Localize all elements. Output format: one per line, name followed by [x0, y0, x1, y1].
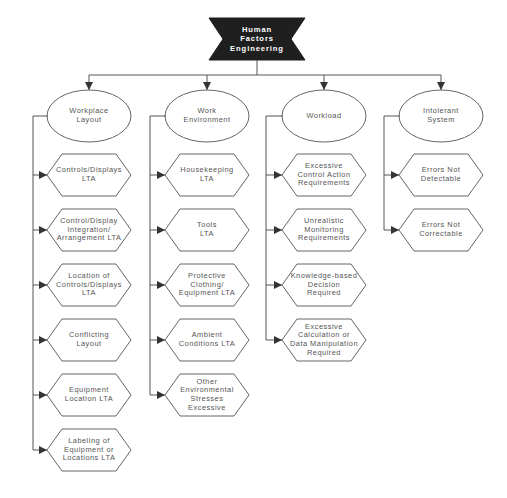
item-node-label: Knowledge-based Decision Required	[291, 272, 358, 298]
item-node-label: Unrealistic Monitoring Requirements	[298, 217, 350, 243]
item-node-label: Protective Clothing/ Equipment LTA	[179, 272, 235, 298]
item-node: Labeling of Equipment or Locations LTA	[53, 429, 125, 471]
root-node-human-factors-engineering-label: Human Factors Engineering	[230, 25, 284, 53]
arrow-right-icon	[274, 171, 282, 179]
item-node: Unrealistic Monitoring Requirements	[288, 209, 360, 251]
arrow-down-icon	[437, 82, 445, 90]
arrow-down-icon	[320, 82, 328, 90]
category-node-work-environment-label: Work Environment	[184, 107, 231, 124]
hfe-taxonomy-diagram: Human Factors EngineeringWorkplace Layou…	[0, 0, 507, 498]
arrow-right-icon	[391, 171, 399, 179]
arrow-right-icon	[39, 281, 47, 289]
arrow-right-icon	[39, 226, 47, 234]
item-node: Conflicting Layout	[53, 319, 125, 361]
item-node-label: Control/Display Integration/ Arrangement…	[57, 217, 122, 243]
arrow-down-icon	[203, 82, 211, 90]
item-node: Errors Not Detectable	[405, 154, 477, 196]
category-node-workplace-layout-label: Workplace Layout	[69, 107, 108, 124]
item-node: Ambient Conditions LTA	[171, 319, 243, 361]
item-node: Controls/Displays LTA	[53, 154, 125, 196]
item-node-label: Errors Not Correctable	[419, 221, 463, 238]
item-node: Other Environmental Stresses Excessive	[171, 374, 243, 416]
item-node-label: Labeling of Equipment or Locations LTA	[63, 437, 116, 463]
arrow-right-icon	[391, 226, 399, 234]
category-node-workplace-layout: Workplace Layout	[47, 90, 131, 142]
item-node: Housekeeping LTA	[171, 154, 243, 196]
arrow-right-icon	[157, 391, 165, 399]
item-node-label: Excessive Control Action Requirements	[297, 162, 350, 188]
arrow-right-icon	[274, 281, 282, 289]
item-node-label: Controls/Displays LTA	[56, 166, 122, 183]
arrow-right-icon	[157, 281, 165, 289]
arrow-right-icon	[39, 171, 47, 179]
item-node-label: Location of Controls/Displays LTA	[56, 272, 122, 298]
arrow-right-icon	[157, 336, 165, 344]
category-rail-line	[150, 116, 166, 395]
arrow-right-icon	[157, 171, 165, 179]
category-node-intolerant-system: Intolerant System	[399, 90, 483, 142]
arrow-right-icon	[274, 336, 282, 344]
category-node-workload: Workload	[282, 90, 366, 142]
item-node-label: Other Environmental Stresses Excessive	[180, 378, 234, 412]
item-node-label: Errors Not Detectable	[421, 166, 461, 183]
category-node-work-environment: Work Environment	[165, 90, 249, 142]
item-node-label: Housekeeping LTA	[180, 166, 233, 183]
item-node-label: Excessive Calculation or Data Manipulati…	[290, 323, 358, 357]
arrow-down-icon	[85, 82, 93, 90]
category-node-intolerant-system-label: Intolerant System	[423, 107, 459, 124]
item-node: Equipment Location LTA	[53, 374, 125, 416]
item-node-label: Tools LTA	[197, 221, 217, 238]
arrow-right-icon	[39, 336, 47, 344]
item-node-label: Ambient Conditions LTA	[179, 331, 235, 348]
item-node-label: Equipment Location LTA	[65, 386, 113, 403]
item-node: Excessive Calculation or Data Manipulati…	[288, 319, 360, 361]
item-node-label: Conflicting Layout	[69, 331, 109, 348]
arrow-right-icon	[157, 226, 165, 234]
item-node: Control/Display Integration/ Arrangement…	[53, 209, 125, 251]
arrow-right-icon	[39, 391, 47, 399]
root-node-human-factors-engineering: Human Factors Engineering	[209, 18, 305, 60]
category-node-workload-label: Workload	[306, 112, 341, 121]
item-node: Location of Controls/Displays LTA	[53, 264, 125, 306]
item-node: Excessive Control Action Requirements	[288, 154, 360, 196]
item-node: Knowledge-based Decision Required	[288, 264, 360, 306]
item-node: Protective Clothing/ Equipment LTA	[171, 264, 243, 306]
arrow-right-icon	[274, 226, 282, 234]
arrow-right-icon	[39, 446, 47, 454]
item-node: Errors Not Correctable	[405, 209, 477, 251]
item-node: Tools LTA	[171, 209, 243, 251]
